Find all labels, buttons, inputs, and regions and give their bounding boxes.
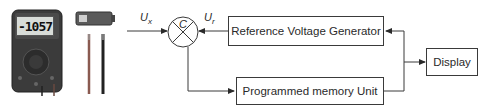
input-voltage-label: Ux: [140, 11, 152, 26]
comparator-label: C: [179, 18, 187, 30]
diagram-canvas: -1057 Ux Ur C Reference Voltage Generato…: [0, 0, 490, 112]
programmed-memory-unit-block: Programmed memory Unit: [236, 77, 384, 105]
comparator-to-memory-line: [188, 47, 234, 91]
display-block: Display: [426, 48, 478, 76]
reference-voltage-generator-block: Reference Voltage Generator: [228, 16, 384, 46]
feedback-to-reference-line: [384, 31, 404, 91]
reference-voltage-label: Ur: [204, 11, 215, 26]
